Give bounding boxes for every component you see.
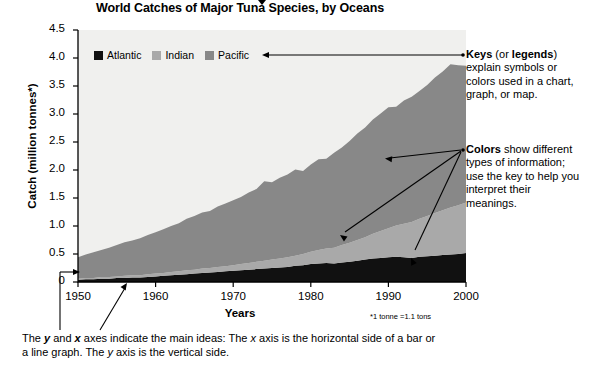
annotation-keys-bold-keys: Keys	[466, 48, 492, 60]
legend-swatch-pacific	[205, 51, 214, 60]
y-tick-label: 2.0	[35, 162, 65, 174]
x-tick-label: 1950	[55, 290, 101, 302]
y-tick-label: 0.5	[35, 246, 65, 258]
annotation-keys-bold-legends: legends	[512, 48, 554, 60]
y-tick-label: 1.5	[35, 190, 65, 202]
figure-caption: The y and x axes indicate the main ideas…	[22, 331, 442, 359]
legend-label-atlantic: Atlantic	[107, 49, 141, 61]
y-tick-label: 2.5	[35, 134, 65, 146]
annotation-colors: Colors show different types of informati…	[466, 143, 584, 210]
x-axis-label: Years	[180, 307, 300, 319]
caption-e: axis is the vertical side.	[113, 346, 229, 358]
leader-dot-keys	[461, 53, 465, 57]
x-tick-label: 1970	[210, 290, 256, 302]
y-tick-label: 3.0	[35, 106, 65, 118]
arrow-head-x-axis	[121, 281, 130, 290]
chart-footnote: *1 tonne =1.1 tons	[370, 312, 431, 321]
legend-item-atlantic: Atlantic	[94, 49, 141, 61]
legend-swatch-atlantic	[94, 51, 103, 60]
legend-swatch-indian	[152, 51, 161, 60]
x-tick-label: 1980	[288, 290, 334, 302]
legend-label-indian: Indian	[165, 49, 194, 61]
chart-legend: Atlantic Indian Pacific	[94, 49, 249, 61]
leader-dot-colors	[461, 148, 465, 152]
y-tick-label: 4.5	[35, 22, 65, 34]
y-tick-label: 3.5	[35, 78, 65, 90]
x-tick-label: 1990	[365, 290, 411, 302]
leader-line-x-axis	[100, 288, 125, 330]
y-tick-label: 4.0	[35, 50, 65, 62]
legend-item-indian: Indian	[152, 49, 194, 61]
annotation-keys-mid: (or	[492, 48, 512, 60]
x-tick-label: 1960	[133, 290, 179, 302]
caption-b: and	[50, 332, 74, 344]
x-tick-label: 2000	[443, 290, 489, 302]
legend-item-pacific: Pacific	[205, 49, 249, 61]
chart-page: World Catches of Major Tuna Species, by …	[0, 0, 589, 369]
caption-a: The	[22, 332, 44, 344]
annotation-colors-bold: Colors	[466, 143, 501, 155]
caption-c: axes indicate the main ideas: The	[81, 332, 251, 344]
legend-label-pacific: Pacific	[218, 49, 249, 61]
y-tick-label: 0	[35, 274, 65, 286]
y-tick-label: 1.0	[35, 218, 65, 230]
annotation-keys: Keys (or legends) explain symbols or col…	[466, 48, 584, 102]
